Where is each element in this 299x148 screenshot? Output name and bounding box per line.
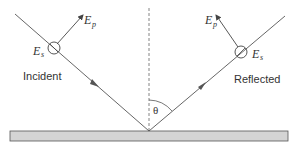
incident-ep-subscript: p [91,20,96,29]
incident-es-cross-icon [50,44,58,52]
reflection-diagram: Incident Reflected θ E s E p E p E s [0,0,299,148]
diagram-svg: Incident Reflected θ E s E p E p E s [0,0,299,148]
incident-label: Incident [23,70,62,82]
reflected-ep-arrow [216,15,238,47]
reflected-ep-subscript: p [212,20,217,29]
incident-es-label: E [32,44,41,58]
incident-ep-label: E [83,13,92,27]
angle-theta-label: θ [153,104,158,116]
reflected-ep-label: E [204,13,213,27]
reflecting-surface [10,131,288,141]
incident-es-subscript: s [41,50,44,59]
reflected-es-subscript: s [260,53,263,62]
reflected-label: Reflected [234,73,280,85]
reflected-es-cross-icon [237,48,245,56]
reflected-es-label: E [251,47,260,61]
incident-ep-arrow [57,15,83,44]
